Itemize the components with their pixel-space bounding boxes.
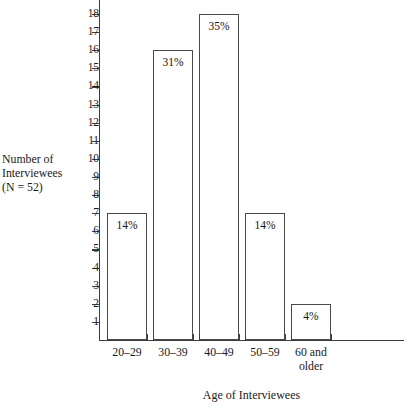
- bar-40-49[interactable]: 35%: [199, 14, 239, 340]
- y-axis-title-line-2: Interviewees: [2, 166, 90, 180]
- y-axis-title: Number of Interviewees (N = 52): [2, 152, 90, 195]
- x-tick-mark: [147, 334, 148, 340]
- bar-20-29[interactable]: 14%: [107, 213, 147, 340]
- bar-60-and-older[interactable]: 4%: [291, 304, 331, 340]
- y-tick-label: 17: [73, 26, 99, 38]
- y-tick-label: 6: [73, 225, 99, 237]
- bar-50-59[interactable]: 14%: [245, 213, 285, 340]
- bar-value-label: 31%: [154, 56, 192, 68]
- y-tick-label: 15: [73, 62, 99, 74]
- y-tick-label: 16: [73, 44, 99, 56]
- x-tick-mark: [245, 334, 246, 340]
- bar-value-label: 14%: [108, 219, 146, 231]
- caption-text: [14, 404, 344, 411]
- bar-value-label: 4%: [292, 310, 330, 322]
- x-tick-mark: [193, 334, 194, 340]
- y-axis-line: [99, 0, 100, 341]
- x-tick-mark: [291, 334, 292, 340]
- y-axis-title-line-1: Number of: [2, 152, 90, 166]
- x-tick-mark: [239, 334, 240, 340]
- y-tick-label: 11: [73, 135, 99, 147]
- y-tick-label: 12: [73, 117, 99, 129]
- y-tick-label: 14: [73, 80, 99, 92]
- y-tick-label: 3: [73, 280, 99, 292]
- x-tick-mark: [153, 334, 154, 340]
- bar-chart-figure: 18 17 16 15 14 13 12 11 10 9 8 7: [0, 0, 411, 411]
- y-tick-label: 7: [73, 207, 99, 219]
- y-tick-label: 5: [73, 243, 99, 255]
- y-tick-label: 1: [73, 316, 99, 328]
- bar-value-label: 35%: [200, 20, 238, 32]
- bar-value-label: 14%: [246, 219, 284, 231]
- y-tick-label: 13: [73, 99, 99, 111]
- x-tick-mark: [199, 334, 200, 340]
- x-tick-mark: [107, 334, 108, 340]
- y-tick-label: 4: [73, 262, 99, 274]
- bar-30-39[interactable]: 31%: [153, 50, 193, 340]
- x-tick-mark: [285, 334, 286, 340]
- y-tick-label: 2: [73, 298, 99, 310]
- x-category-label-60-and-older: 60 and older: [283, 346, 339, 373]
- y-axis-title-line-3: (N = 52): [2, 180, 90, 194]
- x-tick-mark: [331, 334, 332, 340]
- x-axis-title: Age of Interviewees: [99, 388, 404, 402]
- y-tick-label: 18: [73, 8, 99, 20]
